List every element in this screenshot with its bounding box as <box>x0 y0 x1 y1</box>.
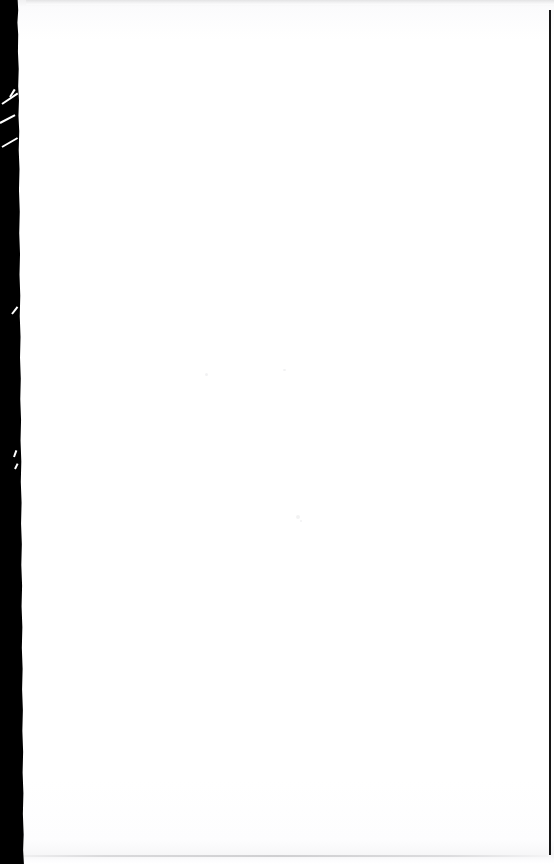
speck-2 <box>283 369 286 371</box>
tear-streak-6 <box>13 450 17 457</box>
tear-streak-2 <box>0 114 15 124</box>
scanned-page-frame <box>0 0 554 864</box>
speck-4 <box>300 520 302 522</box>
tear-streak-3 <box>2 137 19 148</box>
bottom-shadow-rule <box>8 855 548 857</box>
speck-3 <box>296 515 300 519</box>
speck-1 <box>205 373 208 376</box>
page-content-area <box>40 30 534 830</box>
tear-streak-5 <box>11 306 18 314</box>
top-shadow-band <box>26 0 554 5</box>
tear-streak-7 <box>14 463 18 469</box>
right-edge-rule <box>549 10 551 855</box>
